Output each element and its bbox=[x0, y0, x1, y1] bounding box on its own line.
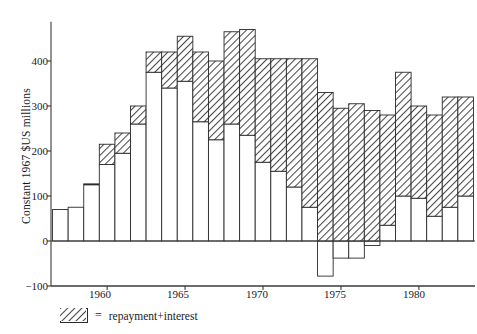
bar-net bbox=[255, 162, 271, 241]
bar-net bbox=[99, 165, 115, 242]
bar-net bbox=[131, 124, 147, 241]
bar-repayment-interest bbox=[458, 97, 474, 196]
bar-net bbox=[146, 72, 162, 241]
legend-label: repayment+interest bbox=[109, 310, 198, 322]
bar-net bbox=[53, 210, 69, 242]
bar-group bbox=[53, 30, 474, 277]
bar-net bbox=[318, 241, 334, 276]
bar-chart: Constant 1967 $US millions 400 300 200 1… bbox=[0, 0, 477, 334]
bar-net bbox=[349, 241, 365, 258]
bar-net bbox=[364, 241, 380, 246]
bar-repayment-interest bbox=[255, 59, 271, 163]
bar-repayment-interest bbox=[208, 61, 224, 140]
plot-area bbox=[0, 0, 477, 334]
legend: = repayment+interest bbox=[60, 308, 198, 323]
bar-repayment-interest bbox=[286, 59, 302, 187]
bar-net bbox=[208, 140, 224, 241]
bar-repayment-interest bbox=[411, 106, 427, 198]
bar-repayment-interest bbox=[396, 72, 412, 196]
bar-repayment-interest bbox=[240, 30, 256, 136]
bar-repayment-interest bbox=[99, 144, 115, 164]
bar-repayment-interest bbox=[364, 111, 380, 242]
bar-repayment-interest bbox=[177, 36, 193, 81]
hatch-swatch-icon bbox=[60, 308, 88, 323]
bar-net bbox=[442, 207, 458, 241]
bar-net bbox=[333, 241, 349, 258]
bar-net bbox=[240, 135, 256, 241]
bar-net bbox=[396, 196, 412, 241]
bar-repayment-interest bbox=[349, 104, 365, 241]
bar-net bbox=[68, 207, 84, 241]
bar-repayment-interest bbox=[380, 115, 396, 225]
bar-net bbox=[271, 171, 287, 241]
bar-net bbox=[380, 225, 396, 241]
bar-net bbox=[115, 153, 131, 241]
bar-net bbox=[286, 187, 302, 241]
bar-repayment-interest bbox=[333, 108, 349, 241]
bar-repayment-interest bbox=[146, 52, 162, 72]
bar-repayment-interest bbox=[318, 93, 334, 242]
bar-repayment-interest bbox=[193, 52, 209, 122]
bar-net bbox=[177, 81, 193, 241]
bar-net bbox=[458, 196, 474, 241]
bar-net bbox=[224, 124, 240, 241]
bar-repayment-interest bbox=[115, 133, 131, 153]
bar-net bbox=[302, 207, 318, 241]
bar-repayment-interest bbox=[442, 97, 458, 207]
bar-repayment-interest bbox=[224, 32, 240, 124]
bar-repayment-interest bbox=[84, 184, 100, 185]
legend-equals: = bbox=[95, 308, 102, 323]
bar-repayment-interest bbox=[271, 59, 287, 172]
bar-repayment-interest bbox=[427, 115, 443, 216]
bar-net bbox=[84, 185, 100, 241]
bar-net bbox=[162, 88, 178, 241]
bar-repayment-interest bbox=[162, 52, 178, 88]
bar-net bbox=[193, 122, 209, 241]
bar-repayment-interest bbox=[302, 59, 318, 208]
bar-net bbox=[411, 198, 427, 241]
bar-net bbox=[427, 216, 443, 241]
bar-repayment-interest bbox=[131, 106, 147, 124]
